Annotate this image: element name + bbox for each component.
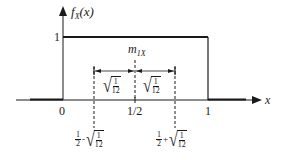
right-std-arrowhead-right-icon bbox=[168, 69, 174, 73]
x-tick-half: 1/2 bbox=[127, 105, 142, 117]
left-std-arrowhead-right-icon bbox=[128, 69, 134, 73]
mean-label: m1X bbox=[128, 43, 146, 55]
mean-sub: 1X bbox=[137, 49, 146, 58]
diagram-canvas bbox=[0, 0, 282, 160]
sqrt-icon: √ bbox=[103, 76, 112, 96]
x-axis-label: x bbox=[265, 94, 270, 106]
mean-base: m bbox=[128, 42, 137, 56]
lower-bound-label: 12-√112 bbox=[75, 130, 104, 149]
sqrt-icon: √ bbox=[143, 76, 152, 96]
left-std-arrowhead-left-icon bbox=[95, 69, 101, 73]
right-std-arrowhead-left-icon bbox=[136, 69, 142, 73]
left-std-label: √112 bbox=[103, 76, 121, 95]
right-std-label: √112 bbox=[143, 76, 161, 95]
upper-bound-label: 12+√112 bbox=[156, 130, 187, 149]
y-axis-arrow-icon bbox=[59, 6, 67, 16]
x-axis-arrow-icon bbox=[252, 96, 262, 104]
y-axis-label: fX(x) bbox=[71, 5, 94, 18]
x-tick-one: 1 bbox=[205, 105, 211, 117]
y-axis-arg: (x) bbox=[80, 4, 94, 19]
sqrt-icon: √ bbox=[86, 130, 95, 150]
x-tick-zero: 0 bbox=[59, 105, 65, 117]
sqrt-icon: √ bbox=[169, 130, 178, 150]
y-axis-sub: X bbox=[75, 12, 80, 21]
y-tick-one: 1 bbox=[54, 31, 60, 43]
